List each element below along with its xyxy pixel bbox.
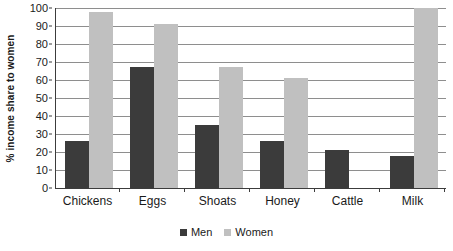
x-axis-tick-labels: ChickensEggsShoatsHoneyCattleMilk	[55, 194, 445, 216]
y-tick-label: 60	[36, 74, 48, 86]
y-axis-title-text: % income share to women	[6, 34, 17, 162]
bars-layer	[56, 8, 446, 188]
bar-group	[381, 8, 446, 188]
y-tick-mark	[49, 134, 52, 135]
bar-group	[121, 8, 186, 188]
y-tick-label: 0	[42, 182, 48, 194]
legend-label: Men	[191, 226, 212, 238]
y-tick-mark	[49, 26, 52, 27]
legend-item-women[interactable]: Women	[224, 226, 273, 238]
x-tick-mark	[444, 188, 445, 192]
y-tick-label: 10	[36, 164, 48, 176]
y-axis-title: % income share to women	[0, 0, 22, 196]
bar-group	[251, 8, 316, 188]
legend-label: Women	[235, 226, 273, 238]
x-tick-cell	[55, 188, 120, 193]
bar-honey-men	[260, 141, 284, 188]
legend-item-men[interactable]: Men	[180, 226, 212, 238]
bar-chart: % income share to women 1009080706050403…	[0, 0, 453, 251]
x-tick-label: Eggs	[120, 194, 185, 216]
x-tick-label: Shoats	[185, 194, 250, 216]
y-tick-mark	[49, 98, 52, 99]
y-tick-label: 100	[30, 2, 48, 14]
y-tick-mark	[49, 116, 52, 117]
x-tick-cell	[315, 188, 380, 193]
y-tick-label: 30	[36, 128, 48, 140]
y-tick-mark	[49, 80, 52, 81]
y-tick-label: 80	[36, 38, 48, 50]
bar-chickens-men	[65, 141, 89, 188]
bar-chickens-women	[89, 12, 113, 188]
y-tick-label: 70	[36, 56, 48, 68]
y-tick-mark	[49, 170, 52, 171]
y-tick-mark	[49, 188, 52, 189]
y-tick-label: 90	[36, 20, 48, 32]
x-tick-cell	[250, 188, 315, 193]
bar-shoats-women	[219, 67, 243, 188]
legend-swatch-icon	[180, 229, 187, 236]
bar-eggs-men	[130, 67, 154, 188]
plot-area	[55, 8, 446, 189]
bar-group	[316, 8, 381, 188]
bar-honey-women	[284, 78, 308, 188]
y-tick-label: 20	[36, 146, 48, 158]
bar-cattle-men	[325, 150, 349, 188]
x-tick-label: Milk	[380, 194, 445, 216]
bar-group	[186, 8, 251, 188]
bar-group	[56, 8, 121, 188]
y-tick-label: 40	[36, 110, 48, 122]
x-axis-tick-marks	[55, 188, 445, 193]
y-tick-mark	[49, 62, 52, 63]
chart-legend: MenWomen	[0, 226, 453, 238]
y-tick-label: 50	[36, 92, 48, 104]
legend-swatch-icon	[224, 229, 231, 236]
y-tick-mark	[49, 8, 52, 9]
x-tick-label: Chickens	[55, 194, 120, 216]
bar-eggs-women	[154, 24, 178, 188]
y-axis-tick-labels: 1009080706050403020100	[22, 8, 52, 188]
x-tick-cell	[185, 188, 250, 193]
x-tick-cell	[380, 188, 445, 193]
x-tick-label: Cattle	[315, 194, 380, 216]
bar-milk-men	[390, 156, 414, 188]
y-tick-mark	[49, 152, 52, 153]
bar-shoats-men	[195, 125, 219, 188]
bar-milk-women	[414, 8, 438, 188]
x-tick-label: Honey	[250, 194, 315, 216]
y-tick-mark	[49, 44, 52, 45]
x-tick-cell	[120, 188, 185, 193]
